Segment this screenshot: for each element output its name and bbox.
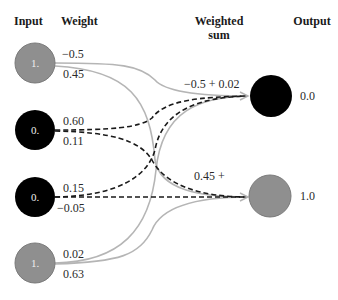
weight-label: 0.60 — [63, 114, 84, 128]
svg-text:0.: 0. — [31, 191, 40, 203]
output-node-2 — [249, 175, 291, 217]
weight-label: 0.11 — [63, 134, 84, 148]
input-node-1: 1. — [15, 43, 55, 83]
weight-label: 0.63 — [63, 267, 84, 281]
input-node-3: 0. — [15, 177, 55, 217]
weighted-sum-label-2: 0.45 + — [194, 169, 225, 183]
output-value-2: 1.0 — [300, 189, 315, 203]
header-input: Input — [14, 14, 43, 28]
header-output: Output — [293, 14, 330, 28]
svg-text:1.: 1. — [31, 257, 40, 269]
weight-label: 0.15 — [63, 181, 84, 195]
output-node-1 — [250, 75, 292, 117]
perceptron-diagram: Input Weight Weighted sum Output 1. 0. — [0, 0, 338, 300]
weight-label: 0.02 — [63, 247, 84, 261]
input-node-4: 1. — [15, 243, 55, 283]
weighted-sum-label-1: −0.5 + 0.02 — [184, 77, 240, 91]
weight-label: −0.05 — [57, 201, 85, 215]
output-value-1: 0.0 — [300, 89, 315, 103]
header-weighted-sum-1: Weighted — [195, 14, 244, 28]
header-weighted-sum-2: sum — [208, 28, 229, 42]
svg-text:1.: 1. — [31, 57, 40, 69]
input-node-2: 0. — [15, 110, 55, 150]
weight-label: −0.5 — [62, 47, 84, 61]
weight-label: 0.45 — [63, 67, 84, 81]
header-weight: Weight — [61, 14, 98, 28]
active-edges — [55, 63, 248, 264]
svg-text:0.: 0. — [31, 124, 40, 136]
